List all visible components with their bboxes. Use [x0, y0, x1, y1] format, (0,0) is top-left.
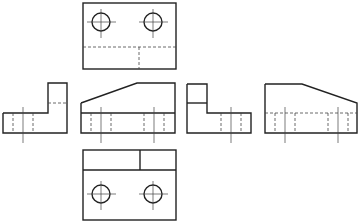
rear-view	[265, 84, 357, 143]
bottom-view	[83, 150, 176, 220]
orthographic-drawing	[0, 0, 362, 223]
right-side-view	[187, 84, 251, 143]
left-side-view	[3, 83, 67, 143]
front-view	[81, 83, 175, 143]
top-view	[83, 3, 176, 69]
